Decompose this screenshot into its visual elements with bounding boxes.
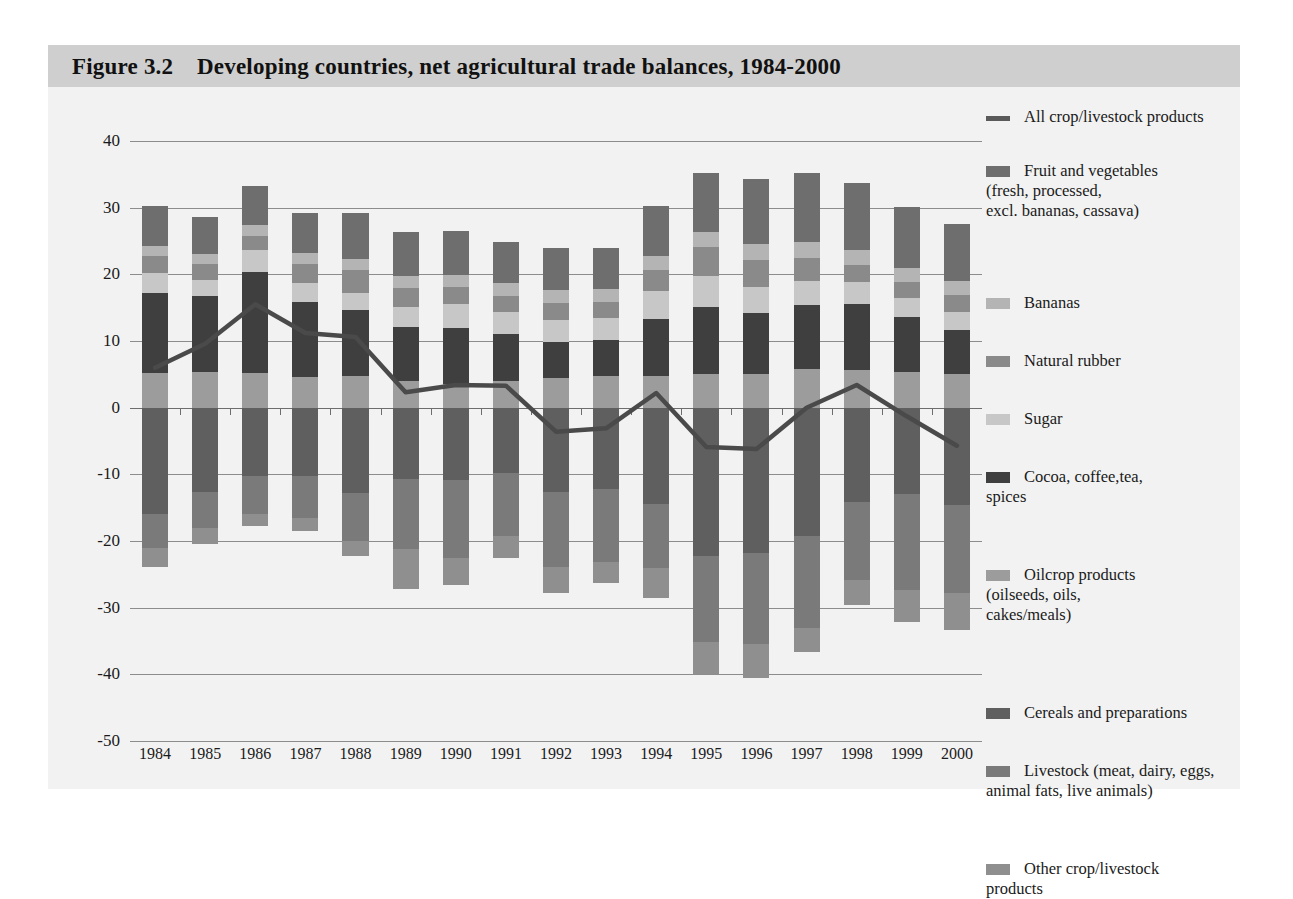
line-series-layer (130, 141, 982, 741)
legend-color-swatch-icon (986, 298, 1010, 309)
legend-item[interactable]: Cocoa, coffee,tea, spices (986, 467, 1236, 507)
y-axis-tick: 10 (103, 331, 120, 351)
x-axis-tick: 1986 (239, 745, 271, 763)
x-axis-tick: 1996 (740, 745, 772, 763)
legend-item-label: Fruit and vegetables (fresh, processed, … (986, 161, 1158, 220)
all-products-line (155, 304, 957, 449)
y-axis-tick: 0 (112, 398, 121, 418)
y-axis-tick: -50 (97, 731, 120, 751)
legend-color-swatch-icon (986, 472, 1010, 483)
x-axis-tick: 1998 (841, 745, 873, 763)
y-axis-tick: -10 (97, 464, 120, 484)
legend-color-swatch-icon (986, 570, 1010, 581)
legend-color-swatch-icon (986, 708, 1010, 719)
y-axis-tick: -30 (97, 598, 120, 618)
chart-canvas: 403020100-10-20-30-40-50 198419851986198… (130, 141, 982, 741)
legend-item-label: Natural rubber (1024, 351, 1121, 370)
x-axis-tick: 1984 (139, 745, 171, 763)
y-axis-tick: -40 (97, 664, 120, 684)
y-axis-tick: 20 (103, 264, 120, 284)
legend-item-label: Livestock (meat, dairy, eggs, animal fat… (986, 761, 1214, 800)
legend-item[interactable]: Sugar (986, 409, 1236, 429)
x-axis-tick: 1990 (440, 745, 472, 763)
legend: All crop/livestock productsFruit and veg… (986, 107, 1236, 899)
figure-title-band: Figure 3.2 Developing countries, net agr… (48, 45, 1240, 87)
page-title: Figure 3.2 Developing countries, net agr… (72, 54, 841, 80)
x-axis-tick: 1985 (189, 745, 221, 763)
legend-item[interactable]: Natural rubber (986, 351, 1236, 371)
y-axis-tick: 30 (103, 198, 120, 218)
legend-item[interactable]: Cereals and preparations (986, 703, 1236, 723)
y-axis-tick: -20 (97, 531, 120, 551)
legend-item-label: Sugar (1024, 409, 1063, 428)
legend-item-label: All crop/livestock products (1024, 107, 1204, 126)
x-axis-tick: 1987 (289, 745, 321, 763)
legend-line-swatch-icon (986, 116, 1010, 121)
figure-panel: Figure 3.2 Developing countries, net agr… (48, 45, 1240, 789)
legend-item-label: Cereals and preparations (1024, 703, 1187, 722)
legend-item[interactable]: Oilcrop products (oilseeds, oils, cakes/… (986, 565, 1236, 625)
legend-item[interactable]: All crop/livestock products (986, 107, 1236, 127)
x-axis-tick: 2000 (941, 745, 973, 763)
x-axis-tick: 1991 (490, 745, 522, 763)
x-axis-tick: 1993 (590, 745, 622, 763)
x-axis-tick: 1995 (690, 745, 722, 763)
gridline (130, 741, 982, 742)
y-axis-tick: 40 (103, 131, 120, 151)
x-axis-tick: 1988 (340, 745, 372, 763)
legend-item[interactable]: Bananas (986, 293, 1236, 313)
legend-item[interactable]: Other crop/livestock products (986, 859, 1236, 899)
x-axis-tick: 1999 (891, 745, 923, 763)
legend-color-swatch-icon (986, 864, 1010, 875)
x-axis-tick: 1992 (540, 745, 572, 763)
x-axis-tick: 1997 (791, 745, 823, 763)
legend-item-label: Bananas (1024, 293, 1080, 312)
legend-color-swatch-icon (986, 356, 1010, 367)
legend-color-swatch-icon (986, 766, 1010, 777)
legend-item-label: Other crop/livestock products (986, 859, 1159, 898)
x-axis-tick: 1994 (640, 745, 672, 763)
legend-color-swatch-icon (986, 166, 1010, 177)
legend-color-swatch-icon (986, 414, 1010, 425)
legend-item[interactable]: Livestock (meat, dairy, eggs, animal fat… (986, 761, 1236, 801)
legend-item[interactable]: Fruit and vegetables (fresh, processed, … (986, 161, 1236, 221)
x-axis-tick: 1989 (390, 745, 422, 763)
